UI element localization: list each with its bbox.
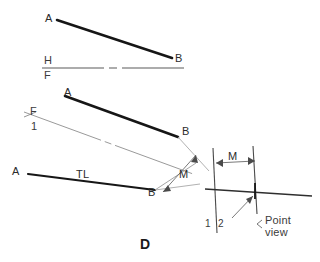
fold-line-12-label-2: 2 [218,218,224,230]
aux2-horizontal-line [205,189,312,196]
m-dimension-label-aux2: M [228,150,237,162]
point-view-label: Point view [265,214,291,238]
front-view-label-b: B [182,125,190,137]
projector-a-front-to-aux1 [12,96,65,170]
projector-b-front-to-aux1 [178,137,209,171]
front-view-label-a: A [64,86,72,98]
point-view-label-hook [257,220,262,228]
front-view-line-ab [65,96,178,137]
aux1-label-a: A [12,165,20,177]
m-dimension-arrow-left [216,159,223,167]
aux2-vertical-projector [253,146,257,214]
fold-line-12-label-1: 1 [205,218,211,230]
aux1-true-length-line-ab [28,174,155,190]
top-view-label-b: B [175,52,183,64]
m-dimension-label-aux1: M [179,168,188,180]
aux1-b-extension [155,184,200,190]
fold-line-hf-label-h: H [44,54,52,66]
aux1-label-b: B [148,186,156,198]
top-view-label-a: A [45,12,53,24]
fold-line-12-left [213,148,217,233]
top-view-line-ab [57,20,172,58]
figure-id-label: D [140,238,150,250]
descriptive-geometry-figure: A B H F A B F 1 A B TL M M 1 2 Point vie… [0,0,320,262]
fold-line-f1-label-1: 1 [31,120,37,132]
true-length-label: TL [76,168,89,180]
fold-line-hf-label-f: F [44,69,51,81]
fold-line-f1-label-f: F [30,105,37,117]
